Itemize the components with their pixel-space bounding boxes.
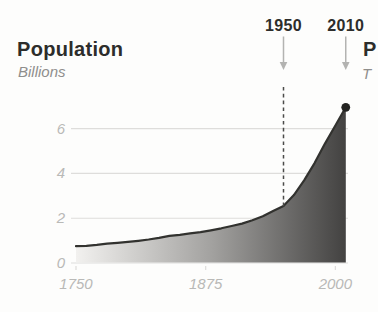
annotation-label-2010: 2010 — [327, 17, 364, 35]
y-tick-label-2: 2 — [56, 209, 66, 226]
arrow-head-1950 — [280, 62, 288, 70]
population-area-fill — [76, 107, 346, 262]
y-tick-label-4: 4 — [57, 164, 65, 181]
chart-subtitle: Billions — [18, 63, 66, 80]
data-point-dot-2010 — [341, 103, 350, 112]
next-panel-title-cutoff: P — [363, 38, 376, 61]
chart-title: Population — [17, 38, 123, 61]
arrow-head-2010 — [342, 62, 350, 70]
x-tick-label-1875: 1875 — [189, 275, 223, 292]
y-tick-label-6: 6 — [57, 120, 66, 137]
y-tick-label-0: 0 — [57, 254, 66, 271]
next-panel-subtitle-cutoff: T — [362, 65, 371, 82]
population-chart-page: { "header": { "title": "Population", "su… — [0, 0, 378, 312]
annotation-label-1950: 1950 — [265, 17, 302, 35]
x-tick-label-2000: 2000 — [318, 275, 353, 292]
x-tick-label-1750: 1750 — [59, 275, 93, 292]
